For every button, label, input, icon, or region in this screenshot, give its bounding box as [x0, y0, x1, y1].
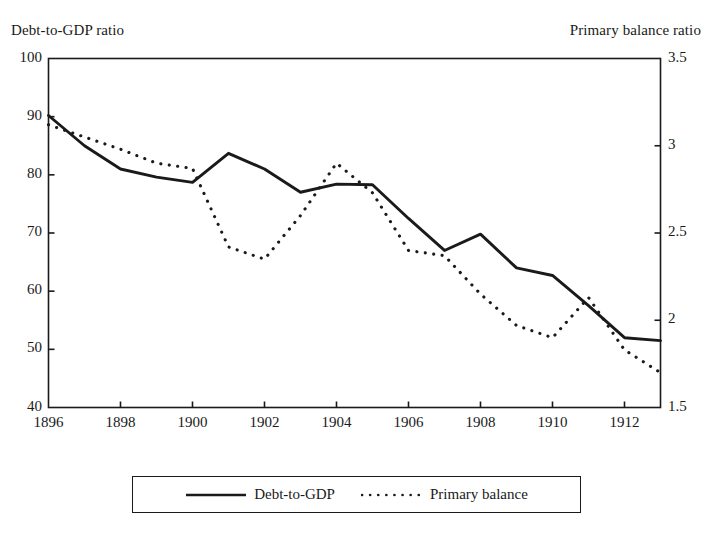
x-axis-labels: 189618981900190219041906190819101912 — [0, 0, 713, 543]
x-tick-label: 1902 — [225, 414, 305, 431]
x-tick-label: 1896 — [9, 414, 89, 431]
legend-item-primary-balance: Primary balance — [361, 486, 528, 503]
legend-label-debt-to-gdp: Debt-to-GDP — [254, 486, 335, 503]
x-tick-label: 1904 — [297, 414, 377, 431]
x-tick-label: 1898 — [81, 414, 161, 431]
chart-container: Debt-to-GDP ratio Primary balance ratio … — [0, 0, 713, 543]
legend-swatch-dotted-icon — [361, 489, 423, 501]
legend-item-debt-to-gdp: Debt-to-GDP — [185, 486, 335, 503]
x-tick-label: 1910 — [513, 414, 593, 431]
x-tick-label: 1908 — [441, 414, 521, 431]
x-tick-label: 1900 — [153, 414, 233, 431]
legend: Debt-to-GDP Primary balance — [132, 476, 581, 513]
legend-label-primary-balance: Primary balance — [430, 486, 528, 503]
x-tick-label: 1906 — [369, 414, 449, 431]
legend-swatch-solid-icon — [185, 489, 247, 501]
x-tick-label: 1912 — [585, 414, 665, 431]
